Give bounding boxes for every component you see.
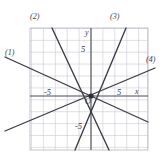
x-axis-label: x bbox=[135, 87, 139, 96]
callout-label-3: (3) bbox=[110, 12, 119, 21]
x-tick-label-positive: 5 bbox=[117, 87, 121, 97]
origin-label: O bbox=[85, 97, 91, 106]
y-tick-label-positive: 5 bbox=[81, 44, 85, 54]
graph-figure: (2) (3) (1) (4) y x 5 -5 -5 5 O bbox=[0, 0, 167, 157]
y-tick-label-negative: -5 bbox=[75, 121, 82, 131]
callout-label-1: (1) bbox=[5, 48, 14, 57]
x-tick-label-negative: -5 bbox=[44, 87, 51, 97]
callout-label-4: (4) bbox=[146, 55, 155, 64]
y-axis-label: y bbox=[85, 28, 89, 37]
coordinate-plane-svg bbox=[0, 0, 167, 157]
callout-label-2: (2) bbox=[30, 12, 39, 21]
